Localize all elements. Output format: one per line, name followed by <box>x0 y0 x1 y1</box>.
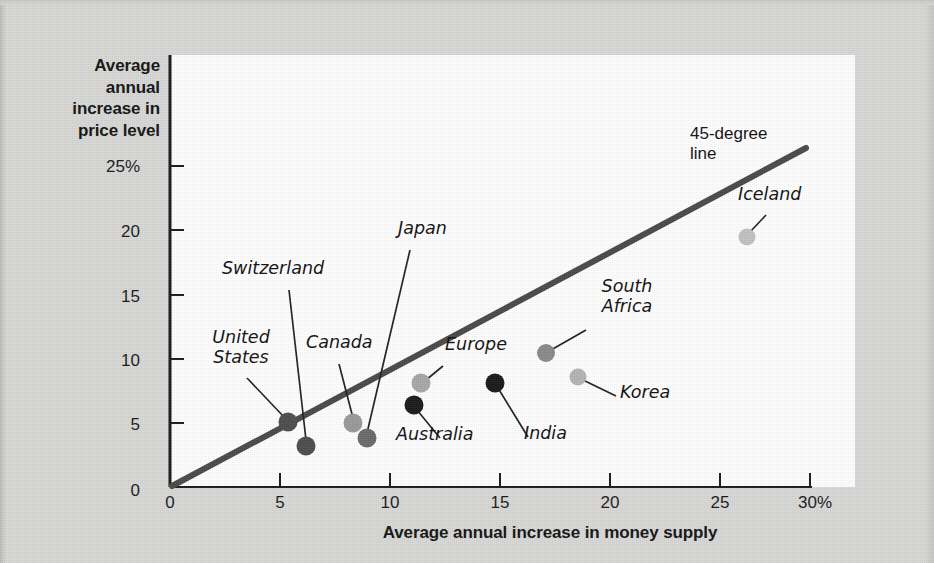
point-label-india: India <box>524 423 567 443</box>
forty-five-degree-line <box>172 148 806 486</box>
point-label-south-africa: South Africa <box>588 276 666 316</box>
x-axis-ticks <box>280 473 810 487</box>
data-point-korea[interactable] <box>570 369 587 386</box>
data-point-iceland[interactable] <box>739 229 756 246</box>
data-point-europe[interactable] <box>412 374 431 393</box>
scatter-chart-figure: Average annual increase in price level A… <box>0 0 934 563</box>
point-label-iceland: Iceland <box>738 184 801 204</box>
point-label-japan: Japan <box>398 218 447 238</box>
page-edge-left <box>0 0 6 563</box>
page-edge-right <box>924 0 934 563</box>
data-point-india[interactable] <box>486 374 505 393</box>
forty-five-degree-line-label: 45-degree line <box>690 124 768 164</box>
data-point-switzerland[interactable] <box>297 437 316 456</box>
point-label-united-states: United States <box>196 327 286 367</box>
data-point-canada[interactable] <box>344 414 363 433</box>
point-label-europe: Europe <box>445 334 507 354</box>
chart-canvas <box>0 0 934 563</box>
data-point-united-states[interactable] <box>279 413 298 432</box>
point-label-korea: Korea <box>620 382 670 402</box>
point-label-canada: Canada <box>306 332 373 352</box>
y-axis-ticks <box>170 166 184 423</box>
data-point-australia[interactable] <box>405 396 424 415</box>
data-point-south-africa[interactable] <box>537 344 555 362</box>
page-edge-top <box>0 0 934 5</box>
data-point-japan[interactable] <box>358 429 377 448</box>
point-label-australia: Australia <box>396 424 473 444</box>
point-label-switzerland: Switzerland <box>222 258 324 278</box>
